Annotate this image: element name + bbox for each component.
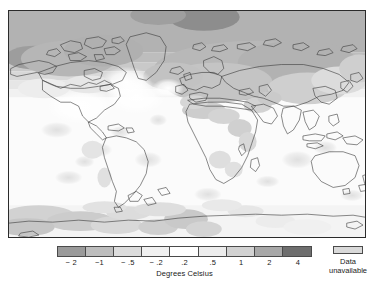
colorbar-tick-8: 4 [296, 258, 300, 267]
colorbar-tick-4: .2 [181, 258, 188, 267]
temperature-anomaly-figure: − 2−1− .5− .2.2.5124 Degrees Celsius Dat… [0, 0, 374, 281]
colorbar-swatch-4 [170, 247, 198, 256]
world-map-panel [8, 10, 366, 238]
data-unavailable-line1: Data [325, 257, 371, 266]
colorbar-tick-7: 2 [267, 258, 271, 267]
colorbar-swatch-6 [227, 247, 255, 256]
data-unavailable-swatch [333, 246, 363, 254]
data-unavailable-line2: unavailable [325, 266, 371, 275]
colorbar-swatch-1 [86, 247, 114, 256]
colorbar-tick-0: − 2 [66, 258, 77, 267]
colorbar [57, 246, 312, 257]
colorbar-swatch-2 [114, 247, 142, 256]
colorbar-tick-2: − .5 [121, 258, 135, 267]
legend: − 2−1− .5− .2.2.5124 Degrees Celsius Dat… [0, 243, 374, 281]
data-unavailable-key: Data unavailable [325, 246, 371, 275]
colorbar-axis-title: Degrees Celsius [57, 269, 312, 278]
colorbar-tick-6: 1 [239, 258, 243, 267]
colorbar-swatch-5 [199, 247, 227, 256]
colorbar-tick-1: −1 [95, 258, 104, 267]
colorbar-swatch-0 [58, 247, 86, 256]
colorbar-wrap [57, 246, 312, 257]
colorbar-swatch-8 [283, 247, 311, 256]
data-unavailable-label: Data unavailable [325, 257, 371, 275]
colorbar-tick-5: .5 [210, 258, 217, 267]
colorbar-swatch-3 [142, 247, 170, 256]
world-map-svg [9, 11, 365, 237]
colorbar-tick-3: − .2 [149, 258, 163, 267]
colorbar-swatch-7 [255, 247, 283, 256]
